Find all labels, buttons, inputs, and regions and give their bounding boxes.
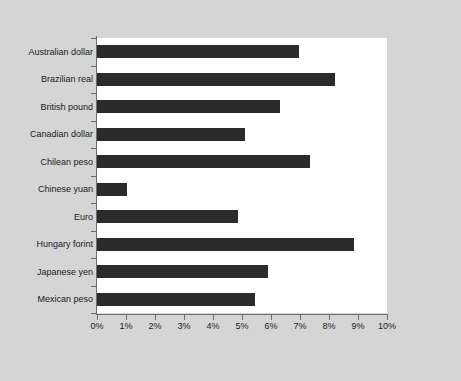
bar (97, 238, 354, 251)
y-axis-category-labels: Australian dollarBrazilian realBritish p… (0, 38, 93, 313)
y-axis-category-label: Brazilian real (5, 74, 93, 84)
bar (97, 293, 255, 306)
bar-chart-figure: 0%1%2%3%4%5%6%7%8%9%10% Australian dolla… (0, 0, 461, 381)
y-axis-category-label: Mexican peso (5, 294, 93, 304)
x-axis-tick (271, 315, 272, 320)
y-axis-category-label: British pound (5, 102, 93, 112)
x-axis-tick (184, 315, 185, 320)
x-axis-tick (387, 315, 388, 320)
y-axis-tick (91, 313, 97, 314)
y-axis-category-label: Japanese yen (5, 267, 93, 277)
x-axis-tick (155, 315, 156, 320)
x-axis-tick-label: 10% (370, 321, 404, 331)
bar (97, 128, 245, 141)
bar (97, 210, 238, 223)
x-axis-tick (358, 315, 359, 320)
x-axis-tick (242, 315, 243, 320)
y-axis-category-label: Australian dollar (5, 47, 93, 57)
bar (97, 100, 280, 113)
y-axis-category-label: Hungary forint (5, 239, 93, 249)
x-axis-tick (213, 315, 214, 320)
x-axis-tick (329, 315, 330, 320)
bar (97, 183, 127, 196)
bar (97, 45, 299, 58)
bar (97, 265, 268, 278)
y-axis-category-label: Euro (5, 212, 93, 222)
y-axis-category-label: Chilean peso (5, 157, 93, 167)
x-axis-tick (126, 315, 127, 320)
y-axis-category-label: Chinese yuan (5, 184, 93, 194)
bar (97, 155, 310, 168)
y-axis-category-label: Canadian dollar (5, 129, 93, 139)
bars-layer (97, 38, 387, 313)
x-axis-tick (300, 315, 301, 320)
x-axis-tick (97, 315, 98, 320)
bar (97, 73, 335, 86)
